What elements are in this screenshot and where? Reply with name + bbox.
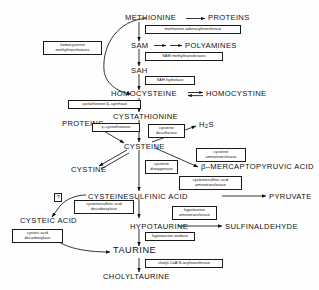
enzyme-sah-hydrolase: SAH hydrolase (145, 76, 195, 85)
enzyme-cysteine-aminotransferase: cysteine aminotransferase (196, 148, 246, 162)
label-polyamines: POLYAMINES (185, 42, 237, 50)
label-h2s: H2S (199, 121, 214, 130)
label-cystine: CYSTINE (71, 166, 106, 174)
arrow-cysteine-to-cystine-a (99, 150, 127, 166)
enzyme-sam-methyltransferases: SAM methyltransferases (145, 52, 223, 61)
arrow-homocysteine-recycle-curve (104, 19, 146, 95)
label-sulfinaldehyde: SULFINALDEHYDE (225, 223, 298, 231)
enzyme-hypotaurine-aminotransferase: hypotaurine aminotransferase (172, 206, 217, 220)
label-sam: SAM (131, 42, 149, 50)
label-cysteic-acid: CYSTEIC ACID (20, 217, 77, 225)
enzyme-cysteine-dioxygenase: cysteine dioxygenase (145, 160, 178, 174)
enzyme-hypotaurine-oxidase: hypotaurine oxidase (145, 232, 195, 241)
enzyme-methionine-adenosyltransferase: methionine adenosyltransferase (145, 25, 241, 34)
label-cysteinesulfinic-acid: CYSTEINESULFINIC ACID (88, 193, 188, 201)
label-pyruvate: PYRUVATE (269, 193, 312, 201)
label-taurine: TAURINE (113, 246, 156, 255)
label-cysteine: CYSTEINE (124, 143, 165, 151)
enzyme-cystathionine-beta-synthase: cystathionine β–synthase (68, 100, 141, 109)
label-h2s-s: S (208, 120, 213, 129)
label-methionine: METHIONINE (125, 14, 176, 22)
unknown-step-marker: ? (54, 193, 62, 202)
enzyme-cysteic-acid-decarboxylase: cysteic acid decarboxylase (12, 229, 63, 243)
pathway-diagram: METHIONINE PROTEINS SAM POLYAMINES SAH H… (0, 0, 319, 290)
enzyme-homocysteine-methyltransferases: homocysteine methyltransferases (43, 41, 102, 55)
enzyme-cysteine-desulfurase: cysteine desulfurase (148, 124, 185, 138)
enzyme-gamma-cystathionase: γ–cystathionase (92, 123, 140, 132)
label-cystathionine: CYSTATHIONINE (113, 113, 178, 121)
enzyme-cholyl-coa-n-acyltransferase: cholyl-CoA N-acyltransferase (145, 259, 223, 268)
label-cholyltaurine: CHOLYLTAURINE (103, 273, 170, 281)
label-mercaptopyruvic-acid: β–MERCAPTOPYRUVIC ACID (201, 163, 314, 171)
label-homocysteine: HOMOCYSTEINE (111, 90, 177, 98)
label-proteins-top: PROTEINS (208, 14, 250, 22)
enzyme-cysteinesulfinic-acid-decarboxylase: cysteinesulfinic acid decarboxylase (74, 200, 134, 214)
enzyme-cysteinesulfinic-acid-aminotransferase: cysteinesulfinic acid aminotransferase (179, 176, 242, 190)
label-hypotaurine: HYPOTAURINE (130, 223, 188, 231)
label-sah: SAH (131, 67, 148, 75)
label-homocystine: HOMOCYSTINE (206, 90, 266, 98)
